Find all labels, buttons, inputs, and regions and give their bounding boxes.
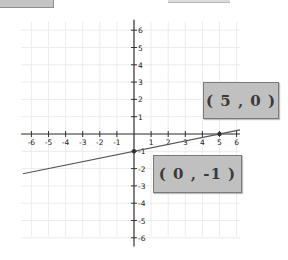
y-tick-label: 2 xyxy=(138,95,143,104)
x-tick-label: 6 xyxy=(234,138,239,147)
y-tick-label: -6 xyxy=(138,234,146,243)
y-tick-label: 1 xyxy=(138,113,143,122)
coordinate-plane: -6-5-4-3-2-1123456654321-1-2-3-4-5-6 xyxy=(0,0,288,260)
x-tick-label: 3 xyxy=(183,138,188,147)
x-tick-label: -2 xyxy=(96,138,104,147)
x-tick-label: 2 xyxy=(166,138,171,147)
x-tick-label: 4 xyxy=(200,138,205,147)
grid xyxy=(21,22,240,238)
y-tick-label: -4 xyxy=(138,199,146,208)
axes xyxy=(21,20,240,247)
x-tick-label: -4 xyxy=(62,138,70,147)
x-tick-label: -6 xyxy=(28,138,36,147)
point-label-0-neg1: ( 0 , -1 ) xyxy=(153,155,242,193)
point-label-5-0: ( 5 , 0 ) xyxy=(203,82,279,119)
y-tick-label: -2 xyxy=(138,165,146,174)
point-label-text: ( 0 , -1 ) xyxy=(159,165,236,183)
x-tick-label: -3 xyxy=(79,138,87,147)
y-tick-label: -5 xyxy=(138,217,146,226)
y-tick-label: 5 xyxy=(138,44,143,53)
x-tick-label: 1 xyxy=(149,138,154,147)
y-tick-label: 3 xyxy=(138,78,143,87)
x-tick-label: -1 xyxy=(113,138,121,147)
x-tick-label: 5 xyxy=(217,138,222,147)
y-tick-label: -3 xyxy=(138,182,146,191)
point-label-text: ( 5 , 0 ) xyxy=(206,92,276,110)
x-tick-label: -5 xyxy=(45,138,53,147)
y-tick-label: 4 xyxy=(138,61,143,70)
data-point xyxy=(217,132,221,136)
data-point xyxy=(132,149,136,153)
y-tick-label: 6 xyxy=(138,26,143,35)
